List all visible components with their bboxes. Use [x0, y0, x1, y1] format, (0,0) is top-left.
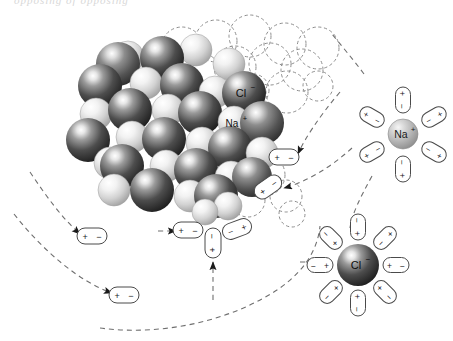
- svg-text:Na: Na: [226, 118, 239, 129]
- svg-text:+: +: [243, 114, 248, 123]
- svg-text:+: +: [387, 261, 392, 271]
- diagram-canvas: + − − + − + − + + −: [0, 0, 453, 341]
- svg-text:+: +: [178, 226, 183, 236]
- svg-text:−: −: [311, 261, 316, 271]
- svg-text:Na: Na: [394, 128, 408, 140]
- svg-text:Cl: Cl: [351, 259, 361, 271]
- dissolution-diagram: opposing of opposing: [0, 0, 453, 341]
- svg-text:+: +: [274, 153, 279, 163]
- sodium-chloride-lattice: [66, 34, 284, 225]
- svg-text:−: −: [96, 232, 101, 242]
- svg-text:−: −: [128, 291, 133, 301]
- svg-text:−: −: [400, 261, 405, 271]
- svg-text:+: +: [207, 247, 217, 252]
- svg-text:+: +: [114, 291, 119, 301]
- svg-text:+: +: [411, 125, 416, 134]
- svg-text:+: +: [82, 232, 87, 242]
- svg-text:−: −: [366, 255, 371, 264]
- hydrated-chloride-shell: − + − + + − + − + −: [307, 214, 409, 316]
- svg-text:−: −: [397, 160, 407, 165]
- svg-text:+: +: [397, 91, 407, 96]
- svg-text:−: −: [207, 233, 217, 238]
- hydrated-sodium-shell: + − − + − + − + + −: [357, 87, 449, 182]
- svg-text:−: −: [397, 104, 407, 109]
- svg-text:+: +: [352, 294, 362, 299]
- svg-text:−: −: [288, 153, 293, 163]
- svg-text:−: −: [352, 218, 362, 223]
- svg-text:−: −: [251, 83, 256, 92]
- svg-text:−: −: [192, 226, 197, 236]
- svg-text:+: +: [397, 173, 407, 178]
- svg-text:Cl: Cl: [236, 87, 246, 99]
- svg-text:+: +: [324, 261, 329, 271]
- svg-text:−: −: [352, 307, 362, 312]
- svg-text:+: +: [352, 231, 362, 236]
